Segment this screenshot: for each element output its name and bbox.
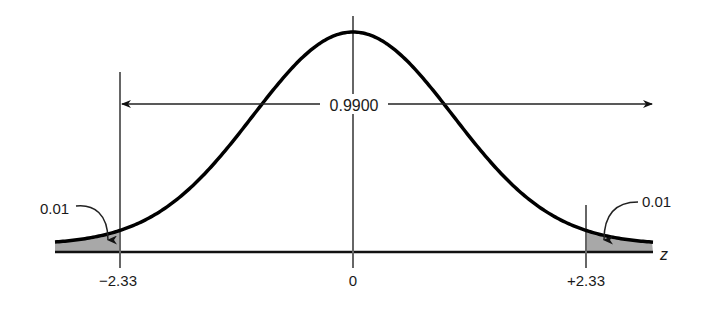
center-area-label: 0.9900 [330,97,379,114]
chart-svg: 0.9900 0.01 0.01 z −2.33 0 +2.33 [0,0,706,314]
tick-label-left: −2.33 [99,272,137,289]
right-tail-pointer-arrow [604,202,638,240]
right-tail-label: 0.01 [642,193,671,210]
normal-distribution-figure: 0.9900 0.01 0.01 z −2.33 0 +2.33 [0,0,706,314]
tick-label-right: +2.33 [567,272,605,289]
x-axis-label: z [659,246,668,263]
tick-label-center: 0 [349,272,357,289]
left-tail-label: 0.01 [40,200,69,217]
